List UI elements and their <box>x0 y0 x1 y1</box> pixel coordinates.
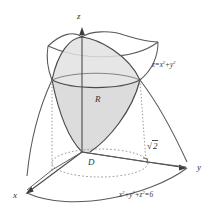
paraboloid-eq-mid: +y <box>165 61 173 69</box>
disk-radius-left <box>52 152 82 170</box>
sphere-cap-left-edge <box>47 46 52 80</box>
paraboloid-eq-exp2: 2 <box>173 60 175 65</box>
solid-region-figure: z x y R D √2 z=x2+y2 x2+y2+z2=6 <box>0 0 218 215</box>
sphere-left-meridian <box>27 80 52 176</box>
x-axis <box>31 152 82 190</box>
base-edge-right <box>148 162 186 167</box>
projection-region-label: D <box>88 158 95 167</box>
solid-region-label: R <box>95 95 101 104</box>
radius-label: √2 <box>147 142 158 151</box>
radius-value: 2 <box>152 140 159 151</box>
base-edge-left <box>27 170 52 190</box>
y-axis-label: y <box>197 163 201 172</box>
paraboloid-eq-lhs: z=x <box>152 61 163 69</box>
figure-canvas <box>0 0 218 215</box>
sphere-front-equator-arc <box>27 168 187 202</box>
paraboloid-equation-label: z=x2+y2 <box>152 62 175 69</box>
sphere-eq-d: =6 <box>145 191 153 199</box>
sphere-cap-fill <box>52 37 140 88</box>
sphere-equation-label: x2+y2+z2=6 <box>119 192 153 199</box>
solid-region-fill <box>52 80 140 154</box>
x-axis-label: x <box>13 191 17 200</box>
z-axis-arrowhead <box>79 27 85 35</box>
drop-line-right <box>140 80 146 162</box>
z-axis-label: z <box>77 12 81 21</box>
